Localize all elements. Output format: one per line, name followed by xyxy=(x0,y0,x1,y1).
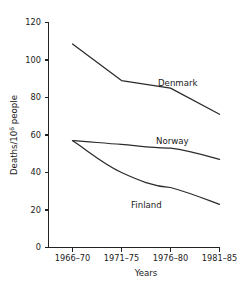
x-tick-label-1: 1966–70 xyxy=(55,253,90,263)
x-tick-label-2: 1971–75 xyxy=(104,253,139,263)
series-label-denmark: Denmark xyxy=(158,78,198,88)
y-tick-label-80: 80 xyxy=(31,92,41,102)
y-tick-label-60: 60 xyxy=(31,130,41,140)
svg-text:Deaths/106 people: Deaths/106 people xyxy=(8,95,19,175)
line-chart-figure: 0 20 40 60 80 100 120 1966–70 1971–75 19… xyxy=(0,0,240,294)
axes-group xyxy=(49,22,221,248)
axis-lines xyxy=(49,22,221,248)
series-label-norway: Norway xyxy=(156,136,189,146)
chart-canvas: 0 20 40 60 80 100 120 1966–70 1971–75 19… xyxy=(0,0,240,294)
y-axis-title-base: Deaths/10 xyxy=(9,131,19,175)
y-axis-ticks: 0 20 40 60 80 100 120 xyxy=(25,17,48,252)
x-tick-label-4: 1981–85 xyxy=(202,253,237,263)
y-axis-title-tail: people xyxy=(9,95,19,127)
x-axis-ticks: 1966–70 1971–75 1976–80 1981–85 xyxy=(55,248,237,264)
x-axis-title: Years xyxy=(134,268,158,278)
y-tick-label-20: 20 xyxy=(31,205,41,215)
y-tick-label-100: 100 xyxy=(25,55,41,65)
series-label-finland: Finland xyxy=(131,200,162,210)
x-tick-label-3: 1976–80 xyxy=(153,253,188,263)
y-axis-title: Deaths/106 people xyxy=(8,95,19,175)
y-tick-label-0: 0 xyxy=(36,242,41,252)
y-tick-label-120: 120 xyxy=(25,17,41,27)
series-line-finland xyxy=(73,141,220,205)
series-lines-group xyxy=(73,44,220,204)
y-tick-label-40: 40 xyxy=(31,167,41,177)
